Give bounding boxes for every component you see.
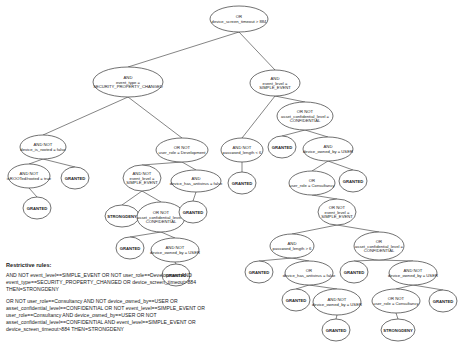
node-label: user_role = Development	[159, 150, 207, 155]
leaf-node-granted: GRANTED	[268, 136, 296, 158]
restrictive-rules-panel: Restrictive rules: AND NOT event_level==…	[6, 262, 246, 338]
node-label: CONFIDENTIAL	[290, 118, 321, 123]
node-label: GRANTED	[183, 210, 204, 215]
condition-node: ANDdevice_owned_by = USER	[303, 137, 353, 161]
node-label: SECURITY_PROPERTY_CHANGED	[93, 84, 163, 89]
tree-edge	[43, 159, 75, 167]
node-label: device_is_rooted = false	[20, 147, 66, 152]
tree-edge	[309, 285, 337, 289]
condition-node: AND NOTdevice_owned_by = USER	[388, 261, 438, 285]
node-label: SIMPLE_EVENT	[259, 85, 291, 90]
tree-edge	[122, 191, 142, 205]
leaf-node-strongdeny: STRONGDENY	[105, 205, 139, 227]
condition-node: ANDevent_level =SIMPLE_EVENT	[250, 70, 300, 96]
node-label: SIMPLE_EVENT	[321, 214, 353, 219]
tree-edge	[130, 232, 161, 237]
condition-node: AND NOTpassword_length < 6	[221, 138, 263, 162]
tree-edge	[379, 260, 413, 261]
tree-edge	[142, 191, 161, 202]
leaf-node-granted: GRANTED	[179, 201, 207, 223]
tree-edge	[29, 159, 43, 164]
tree-edge	[182, 162, 196, 170]
node-label: user_role = Consultancy	[289, 183, 335, 188]
node-label: GRANTED	[326, 328, 347, 333]
node-label: device_screen_timeout > 884	[212, 19, 267, 24]
leaf-node-granted: GRANTED	[340, 261, 368, 283]
condition-node: ORdevice_screen_timeout > 884	[210, 6, 268, 32]
tree-edge	[193, 192, 196, 201]
tree-edge	[161, 232, 175, 238]
rules-title: Restrictive rules:	[6, 262, 246, 268]
node-label: user_role = Consultancy	[373, 301, 419, 306]
leaf-node-granted: GRANTED	[228, 172, 256, 194]
condition-node: ORdevice_has_antivirus = false	[283, 261, 336, 285]
tree-edge	[312, 195, 337, 199]
condition-node: OR NOTuser_role = Development	[156, 138, 208, 162]
node-label: GRANTED	[65, 176, 86, 181]
leaf-node-granted: GRANTED	[116, 237, 144, 259]
condition-node: OR NOTasset_confidential_level =CONFIDEN…	[277, 102, 333, 130]
node-label: device_owned_by = USER	[150, 250, 200, 255]
node-label: GRANTED	[120, 246, 141, 251]
node-label: password_length > 6	[273, 246, 312, 251]
node-label: isROOTed/rooted = true	[7, 176, 52, 181]
tree-edge	[282, 130, 305, 136]
node-label: GRANTED	[232, 181, 253, 186]
tree-edge	[242, 96, 275, 138]
condition-node: ORuser_role = Consultancy	[289, 171, 336, 195]
node-label: STRONGDENY	[107, 214, 137, 219]
tree-edge	[259, 258, 292, 261]
tree-edge	[337, 225, 379, 232]
condition-node: OR NOTasset_confidential_level =CONFIDEN…	[137, 202, 186, 232]
tree-edge	[328, 161, 353, 170]
tree-edge	[305, 130, 328, 137]
tree-edge	[142, 162, 182, 165]
leaf-node-granted: GRANTED	[245, 261, 273, 283]
condition-node: ANDdevice_has_antivirus = false	[170, 170, 223, 192]
condition-node: AND NOTdevice_is_rooted = false	[20, 135, 66, 159]
node-label: GRANTED	[27, 206, 48, 211]
condition-node: ANDevent_type =SECURITY_PROPERTY_CHANGED	[93, 67, 163, 97]
tree-edge	[29, 188, 37, 197]
condition-node: OR NOTevent_level =SIMPLE_EVENT	[318, 199, 356, 225]
node-label: password_length < 6	[223, 150, 262, 155]
node-label: GRANTED	[344, 270, 365, 275]
tree-edge	[413, 285, 443, 290]
condition-node: AND NOTdevice_owned_by = USER	[150, 238, 200, 262]
node-label: GRANTED	[286, 298, 307, 303]
leaf-node-granted: GRANTED	[282, 289, 310, 311]
node-label: GRANTED	[249, 270, 270, 275]
tree-edge	[128, 97, 182, 138]
tree-edge	[312, 161, 328, 171]
node-label: STRONGDENY	[383, 328, 413, 333]
leaf-node-granted: GRANTED	[322, 319, 350, 341]
node-label: GRANTED	[272, 145, 293, 150]
node-label: GRANTED	[433, 299, 454, 304]
leaf-node-granted: GRANTED	[339, 170, 367, 192]
condition-node: ANDpassword_length > 6	[270, 234, 314, 258]
tree-edge	[396, 313, 398, 319]
tree-edge	[43, 97, 128, 135]
node-label: device_owned_by = USER	[312, 302, 362, 307]
tree-edge	[396, 285, 413, 289]
condition-node: ORasset_confidential_level =CONFIDENTIAL	[354, 232, 404, 260]
leaf-node-strongdeny: STRONGDENY	[381, 319, 415, 341]
node-label: GRANTED	[343, 179, 364, 184]
rule-2: OR NOT user_role==Consultancy AND NOT de…	[6, 298, 246, 334]
node-label: device_has_antivirus = false	[283, 273, 336, 278]
node-label: CONFIDENTIAL	[364, 248, 395, 253]
tree-edge	[296, 285, 309, 289]
leaf-node-granted: GRANTED	[23, 197, 51, 219]
tree-edge	[275, 96, 305, 102]
node-label: device_owned_by = USER	[388, 273, 438, 278]
tree-edge	[292, 258, 309, 261]
node-label: device_has_antivirus = false	[170, 181, 223, 186]
tree-edge	[336, 315, 337, 319]
rule-1: AND NOT event_level==SIMPLE_EVENT OR NOT…	[6, 272, 246, 294]
node-label: CONFIDENTIAL	[146, 219, 177, 224]
tree-edge	[128, 32, 239, 67]
condition-node: AND NOTisROOTed/rooted = true	[7, 164, 52, 188]
node-label: SIMPLE_EVENT	[126, 180, 158, 185]
tree-edge	[239, 32, 275, 70]
leaf-node-granted: GRANTED	[61, 167, 89, 189]
